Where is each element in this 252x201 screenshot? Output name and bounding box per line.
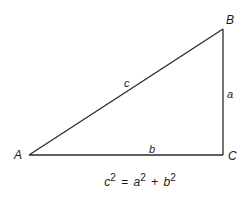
equation-equals: = [121, 175, 128, 189]
equation-plus: + [151, 175, 158, 189]
equation-term2-exponent: 2 [170, 172, 176, 183]
equation-term1-exponent: 2 [140, 172, 146, 183]
side-label-a: a [227, 88, 233, 100]
vertex-label-b: B [226, 13, 234, 27]
side-label-c: c [124, 77, 130, 89]
equation-lhs-exponent: 2 [110, 172, 116, 183]
side-label-b: b [149, 143, 155, 155]
right-triangle-diagram: A B C c a b [0, 0, 252, 201]
vertex-label-a: A [13, 148, 22, 162]
pythagorean-equation: c2 = a2 + b2 [0, 172, 252, 189]
side-c-hypotenuse [29, 29, 223, 155]
vertex-label-c: C [228, 149, 237, 163]
